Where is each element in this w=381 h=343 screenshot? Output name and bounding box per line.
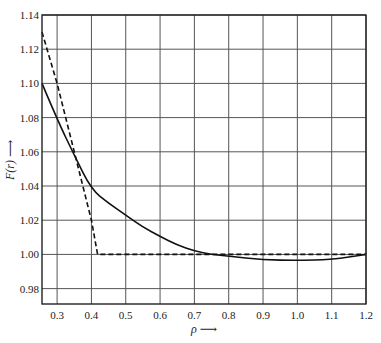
y-tick-label: 1.12	[20, 43, 39, 55]
dashed-curve	[42, 32, 366, 254]
x-tick-label: 0.5	[119, 309, 133, 321]
y-tick-label: 0.98	[20, 283, 40, 295]
chart: 0.30.40.50.60.70.80.91.01.11.20.981.001.…	[0, 0, 381, 343]
y-tick-label: 1.02	[20, 214, 39, 226]
y-tick-label: 1.10	[20, 77, 40, 89]
x-tick-label: 0.6	[153, 309, 167, 321]
x-tick-label: 0.9	[256, 309, 270, 321]
x-tick-label: 0.3	[50, 309, 64, 321]
x-tick-label: 1.1	[325, 309, 339, 321]
y-tick-label: 1.08	[20, 112, 40, 124]
x-tick-label: 1.2	[359, 309, 373, 321]
x-axis-label: ρ ⟶	[190, 322, 217, 336]
x-tick-label: 0.8	[222, 309, 236, 321]
x-tick-label: 0.4	[85, 309, 99, 321]
tick-labels: 0.30.40.50.60.70.80.91.01.11.20.981.001.…	[20, 9, 373, 321]
x-tick-label: 1.0	[290, 309, 304, 321]
y-tick-label: 1.06	[20, 146, 40, 158]
y-axis-label: F(r) ⟶	[3, 140, 17, 181]
y-tick-label: 1.00	[20, 248, 40, 260]
series	[42, 32, 366, 260]
solid-curve	[42, 83, 366, 260]
x-tick-label: 0.7	[188, 309, 202, 321]
y-tick-label: 1.04	[20, 180, 40, 192]
y-tick-label: 1.14	[20, 9, 40, 21]
